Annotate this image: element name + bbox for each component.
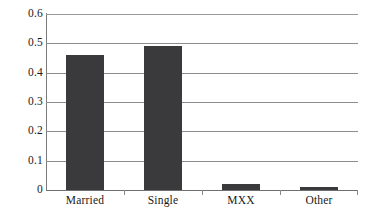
y-axis-labels: 0.6 0.5 0.4 0.3 0.2 0.1 0 <box>0 0 43 222</box>
x-tick-label-single: Single <box>124 195 202 207</box>
bar-other[interactable] <box>300 187 338 190</box>
x-tick-label-mxx: MXX <box>202 195 280 207</box>
bar-chart: 0.6 0.5 0.4 0.3 0.2 0.1 0 <box>0 0 368 222</box>
bars-layer <box>46 14 358 190</box>
x-tick-label-other: Other <box>280 195 358 207</box>
bar-slot <box>280 14 358 190</box>
y-tick-label: 0.2 <box>1 126 43 138</box>
y-tick-label: 0.6 <box>1 8 43 20</box>
bar-married[interactable] <box>66 55 104 190</box>
plot-area <box>46 14 358 190</box>
bar-mxx[interactable] <box>222 184 260 190</box>
bar-slot <box>124 14 202 190</box>
y-tick-label: 0.5 <box>1 38 43 50</box>
bar-slot <box>202 14 280 190</box>
y-tick-label: 0.1 <box>1 155 43 167</box>
y-tick-label: 0.4 <box>1 67 43 79</box>
y-tick-label: 0 <box>1 184 43 196</box>
bar-single[interactable] <box>144 46 182 190</box>
bar-slot <box>46 14 124 190</box>
y-tick-label: 0.3 <box>1 96 43 108</box>
x-tick-label-married: Married <box>46 195 124 207</box>
